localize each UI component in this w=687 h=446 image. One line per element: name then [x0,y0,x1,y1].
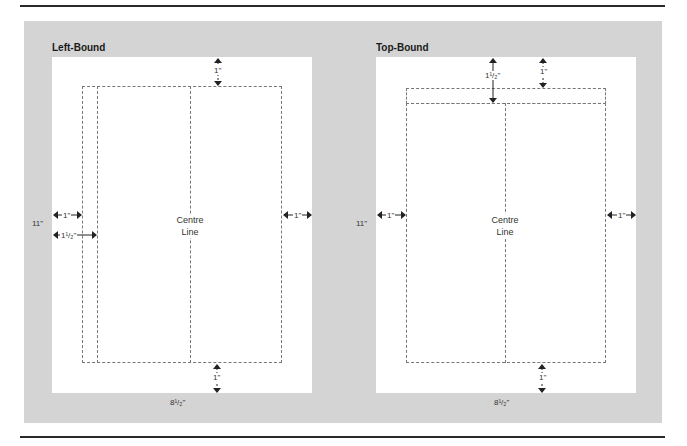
centre-label-line1: Centre [160,214,220,226]
left-bound-centre-label: Centre Line [160,214,220,238]
left-bound-right-margin-label: 1" [293,211,302,220]
left-bound-bottom-margin-label: 1" [213,373,220,382]
top-bound-left-margin-label: 1" [386,211,395,220]
left-bound-binding-line [97,86,98,363]
top-bound-title: Top-Bound [376,42,429,53]
centre-label-line2: Line [475,226,535,238]
top-bound-header-strip [406,88,606,104]
top-bound-centre-label: Centre Line [475,214,535,238]
top-bound-bottom-margin-label: 1" [539,373,546,382]
left-bound-top-margin-label: 1" [214,66,221,75]
top-bound-top-outer-margin-label: 1" [540,67,547,76]
centre-label-line1: Centre [475,214,535,226]
centre-label-line2: Line [160,226,220,238]
left-bound-width-label: 8¹/₂" [170,398,185,407]
top-bound-right-margin-label: 1" [617,211,626,220]
top-rule [20,5,665,7]
top-bound-top-inner-margin-label: 1¹/₂" [484,71,501,80]
left-bound-height-label: 11" [32,219,43,228]
top-bound-top-inner-arrow-icon [489,58,499,103]
left-bound-left-inner-margin-label: 1¹/₂" [60,231,77,240]
bottom-rule [20,436,665,438]
top-bound-width-label: 8¹/₂" [494,398,509,407]
left-bound-title: Left-Bound [52,42,105,53]
top-bound-height-label: 11" [356,219,367,228]
left-bound-left-outer-margin-label: 1" [62,211,71,220]
